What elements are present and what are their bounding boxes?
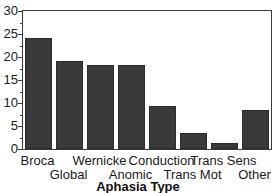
x-axis-title: Aphasia Type [0, 180, 276, 193]
x-axis-category-label: Broca [21, 154, 55, 167]
plot-area [22, 10, 272, 150]
bar [149, 106, 176, 149]
bar [118, 65, 145, 149]
y-axis-tick-label: 0 [0, 142, 18, 155]
bar [87, 65, 114, 149]
bar [25, 38, 52, 149]
bar [242, 110, 269, 149]
y-axis-tick-label: 30 [0, 4, 18, 17]
x-axis-category-label: Conduction [129, 154, 195, 167]
bar-chart: 302520151050 BrocaGlobalWernickeAnomicCo… [0, 0, 276, 193]
bars-group [23, 11, 271, 149]
y-axis-tick-label: 25 [0, 27, 18, 40]
bar [180, 133, 207, 149]
y-axis-tick-label: 15 [0, 73, 18, 86]
bar [56, 61, 83, 149]
x-axis-category-label: Wernicke [73, 154, 127, 167]
y-axis-tick-label: 10 [0, 96, 18, 109]
y-axis-tick-label: 5 [0, 119, 18, 132]
x-axis-category-label: Trans Sens [191, 154, 257, 167]
y-axis-tick [18, 149, 23, 150]
bar [211, 143, 238, 149]
y-axis-tick-label: 20 [0, 50, 18, 63]
